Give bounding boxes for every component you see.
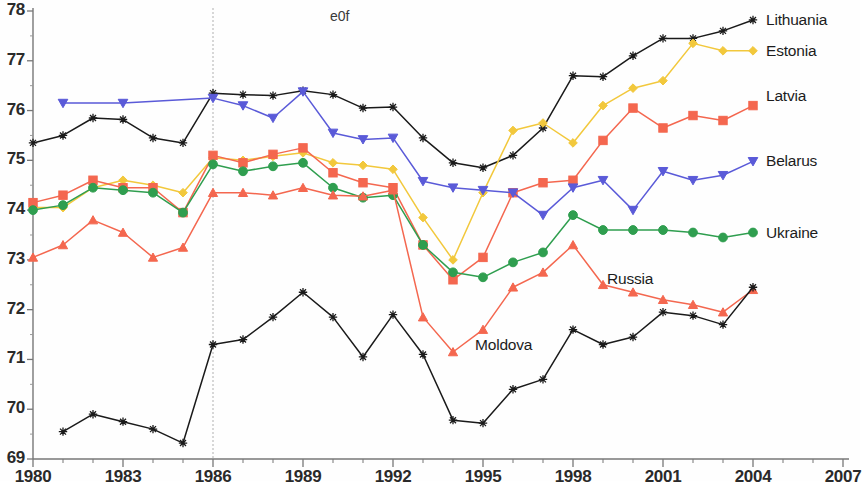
- x-axis-tick-label: 2004: [723, 467, 783, 486]
- data-point: [719, 116, 727, 124]
- data-point: [689, 311, 697, 319]
- data-point: [269, 91, 277, 99]
- data-point: [719, 233, 728, 242]
- data-point: [59, 427, 67, 435]
- data-point: [329, 313, 337, 321]
- data-point: [419, 241, 428, 250]
- data-point: [479, 253, 487, 261]
- data-point: [149, 425, 157, 433]
- data-point: [719, 320, 727, 328]
- data-point: [659, 226, 668, 235]
- data-point: [479, 273, 488, 282]
- data-point: [298, 183, 307, 191]
- y-axis-tick-label: 75: [0, 149, 25, 169]
- data-point: [569, 325, 577, 333]
- series-label-ukraine: Ukraine: [766, 224, 818, 242]
- data-point: [689, 111, 697, 119]
- data-point: [59, 201, 68, 210]
- data-point: [479, 419, 487, 427]
- chart-title: e0f: [330, 8, 349, 24]
- data-point: [359, 104, 367, 112]
- x-axis-tick-label: 1998: [543, 467, 603, 486]
- data-point: [29, 206, 38, 215]
- data-point: [689, 228, 698, 237]
- data-point: [239, 335, 247, 343]
- data-point: [748, 158, 758, 166]
- data-point: [29, 139, 37, 147]
- data-point: [509, 151, 517, 159]
- x-axis-tick-label: 2001: [633, 467, 693, 486]
- data-point: [299, 288, 307, 296]
- y-axis-tick-label: 69: [0, 448, 25, 468]
- data-point: [89, 183, 98, 192]
- series-line-estonia: [33, 43, 753, 260]
- data-point: [359, 179, 367, 187]
- series-moldova: [59, 283, 757, 447]
- series-label-moldova: Moldova: [475, 336, 532, 354]
- data-point: [179, 208, 188, 217]
- x-axis-tick-label: 1983: [93, 467, 153, 486]
- data-point: [719, 27, 727, 35]
- data-point: [209, 340, 217, 348]
- data-point: [599, 136, 607, 144]
- series-label-russia: Russia: [607, 270, 653, 288]
- series-line-lithuania: [33, 20, 753, 168]
- data-point: [629, 333, 637, 341]
- data-point: [749, 47, 758, 56]
- data-point: [509, 258, 518, 267]
- y-axis-tick-label: 77: [0, 50, 25, 70]
- data-point: [749, 16, 757, 24]
- data-point: [509, 126, 518, 135]
- data-point: [419, 350, 427, 358]
- y-axis-tick-label: 74: [0, 199, 25, 219]
- data-point: [599, 226, 608, 235]
- x-axis-tick-label: 1989: [273, 467, 333, 486]
- data-point: [28, 253, 37, 261]
- x-axis-tick-label: 1980: [3, 467, 63, 486]
- data-point: [209, 151, 217, 159]
- series-label-lithuania: Lithuania: [766, 11, 827, 29]
- data-point: [119, 186, 128, 195]
- data-point: [599, 340, 607, 348]
- data-point: [569, 211, 578, 220]
- data-point: [449, 416, 457, 424]
- data-point: [539, 119, 548, 128]
- data-point: [508, 283, 517, 291]
- data-point: [239, 167, 248, 176]
- data-point: [539, 179, 547, 187]
- data-point: [89, 410, 97, 418]
- data-point: [179, 139, 187, 147]
- data-point: [539, 375, 547, 383]
- y-axis-tick-label: 73: [0, 249, 25, 269]
- data-point: [59, 131, 67, 139]
- data-point: [299, 158, 308, 167]
- data-point: [299, 144, 307, 152]
- series-label-estonia: Estonia: [766, 42, 816, 60]
- x-axis-tick-label: 1995: [453, 467, 513, 486]
- data-point: [89, 114, 97, 122]
- data-point: [268, 114, 278, 122]
- data-point: [209, 160, 218, 169]
- data-point: [569, 72, 577, 80]
- data-point: [239, 90, 247, 98]
- data-point: [359, 161, 368, 170]
- data-point: [119, 115, 127, 123]
- series-line-ukraine: [33, 163, 753, 277]
- series-label-latvia: Latvia: [766, 87, 806, 105]
- data-point: [569, 176, 577, 184]
- data-point: [509, 385, 517, 393]
- x-axis-tick-label: 1986: [183, 467, 243, 486]
- data-point: [479, 164, 487, 172]
- data-point: [149, 188, 158, 197]
- x-axis-tick-label: 1992: [363, 467, 423, 486]
- data-point: [688, 176, 698, 184]
- series-ukraine: [29, 158, 758, 281]
- data-point: [599, 73, 607, 81]
- data-point: [749, 101, 757, 109]
- data-point: [238, 102, 248, 110]
- data-point: [389, 310, 397, 318]
- data-point: [749, 283, 757, 291]
- y-axis-tick-label: 72: [0, 299, 25, 319]
- data-point: [329, 90, 337, 98]
